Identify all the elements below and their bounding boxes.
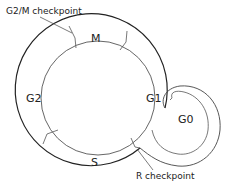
phase-m-label: M <box>91 32 101 45</box>
r-checkpoint-label: R checkpoint <box>136 171 195 181</box>
phase-s-label: S <box>91 156 98 169</box>
cell-cycle-diagram: G2/M checkpoint M G2 G1 G0 S R checkpoin… <box>0 0 234 185</box>
g2m-checkpoint-leader <box>40 17 72 33</box>
g2-s-divider <box>43 130 58 144</box>
phase-g2-label: G2 <box>26 92 42 105</box>
g0-connector <box>170 98 172 100</box>
phase-g1-label: G1 <box>146 92 162 105</box>
g2-m-divider <box>69 26 76 48</box>
phase-g0-label: G0 <box>178 113 194 126</box>
inner-ring <box>41 41 155 155</box>
g2m-checkpoint-label: G2/M checkpoint <box>6 6 82 16</box>
